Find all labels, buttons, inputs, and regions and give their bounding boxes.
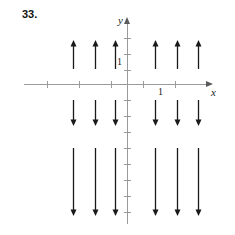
y-axis-tick xyxy=(124,54,131,55)
field-vector-down xyxy=(173,148,182,216)
direction-field-figure: 33. y x 1 1 xyxy=(0,0,235,235)
y-axis-line xyxy=(127,22,128,224)
x-axis-tick xyxy=(175,81,176,88)
y-axis-tick xyxy=(124,148,131,149)
field-vector-down xyxy=(91,100,100,126)
field-vector-up xyxy=(173,40,182,69)
y-axis-tick xyxy=(124,100,131,101)
y-axis-tick xyxy=(124,164,131,165)
field-vector-down xyxy=(173,100,182,126)
problem-number-label: 33. xyxy=(22,8,37,20)
x-axis-tick xyxy=(47,81,48,88)
field-vector-down xyxy=(151,148,160,216)
y-axis-tick xyxy=(124,212,131,213)
x-axis-tick xyxy=(111,81,112,88)
y-axis-tick xyxy=(124,70,131,71)
x-axis-tick-label-1: 1 xyxy=(158,86,163,97)
field-vector-down xyxy=(194,100,203,126)
field-vector-down xyxy=(194,148,203,216)
x-axis-line xyxy=(24,84,210,85)
field-vector-down xyxy=(69,100,78,126)
x-axis-tick xyxy=(79,81,80,88)
field-vector-down xyxy=(111,148,120,216)
y-axis-tick xyxy=(124,38,131,39)
x-axis-label: x xyxy=(211,86,216,98)
y-axis-tick xyxy=(124,116,131,117)
y-axis-label: y xyxy=(118,14,123,26)
y-axis-arrowhead-icon xyxy=(124,17,130,24)
field-vector-down xyxy=(151,100,160,126)
y-axis-tick xyxy=(124,196,131,197)
field-vector-up xyxy=(111,40,120,69)
field-vector-up xyxy=(69,40,78,69)
field-vector-down xyxy=(111,100,120,126)
x-axis-tick xyxy=(143,81,144,88)
y-axis-tick xyxy=(124,132,131,133)
field-vector-up xyxy=(151,40,160,69)
field-vector-down xyxy=(69,148,78,216)
y-axis-tick xyxy=(124,180,131,181)
field-vector-down xyxy=(91,148,100,216)
field-vector-up xyxy=(194,40,203,69)
field-vector-up xyxy=(91,40,100,69)
